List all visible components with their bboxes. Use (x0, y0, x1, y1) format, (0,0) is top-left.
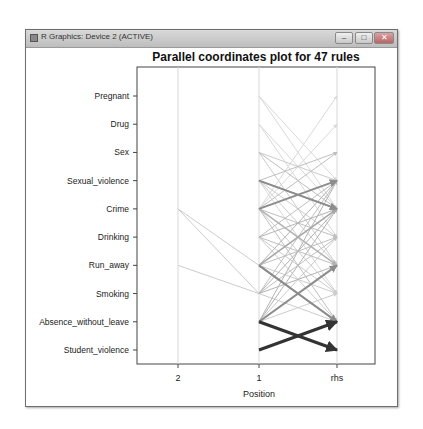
y-tick-label: Sex (114, 147, 129, 157)
y-tick-label: Drinking (98, 232, 129, 242)
y-tick-label: Crime (106, 204, 129, 214)
x-tick-label: rhs (331, 373, 344, 383)
x-tick-label: 1 (256, 373, 261, 383)
chart-title: Parallel coordinates plot for 47 rules (152, 50, 360, 64)
x-tick-label: 2 (175, 373, 180, 383)
y-tick-label: Student_violence (64, 345, 129, 355)
parallel-coordinates-plot: Parallel coordinates plot for 47 rules P… (0, 0, 423, 429)
y-tick-label: Pregnant (95, 91, 130, 101)
y-tick-label: Run_away (89, 260, 130, 270)
y-axis: PregnantDrugSexSexual_violenceCrimeDrink… (39, 91, 137, 355)
y-tick-label: Drug (111, 119, 130, 129)
y-tick-label: Smoking (96, 289, 129, 299)
y-tick-label: Absence_without_leave (39, 317, 129, 327)
y-tick-label: Sexual_violence (67, 176, 129, 186)
plot-frame (137, 67, 375, 364)
rule-line (178, 209, 259, 265)
x-axis-label: Position (243, 389, 275, 399)
rule-line (178, 209, 259, 294)
rule-segments (178, 96, 337, 350)
x-axis: 21rhs (175, 364, 343, 383)
rule-line (178, 265, 259, 293)
rule-line (259, 96, 337, 181)
rule-line (259, 181, 337, 322)
